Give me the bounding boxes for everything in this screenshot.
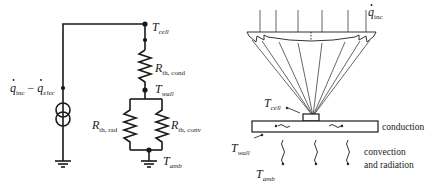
solar-cell: [303, 114, 319, 121]
resistor-conv: [156, 99, 168, 150]
label-conduction: conduction: [382, 122, 424, 132]
label-tamb: Tamb: [163, 154, 182, 170]
label-amb: Tamb: [256, 167, 275, 183]
resistor-cond: [139, 50, 151, 99]
ground-icon: [141, 161, 157, 167]
label-rconv: Rth, conv: [170, 118, 201, 134]
label-source: qinc − qelec: [10, 81, 56, 97]
label-cell: Tcell: [264, 96, 281, 112]
heat-sink-plate: [252, 121, 378, 132]
label-tcell: Tcell: [152, 20, 169, 36]
incident-rays: [260, 10, 366, 32]
label-rcond: Rth, cond: [154, 61, 185, 77]
label-radiation: and radiation: [364, 160, 414, 170]
dot-accent: [371, 4, 373, 6]
convection-arrows: [282, 140, 350, 165]
node-tcell: [143, 22, 147, 26]
fresnel-lens: [247, 32, 376, 42]
label-twall: Twall: [155, 82, 174, 98]
label-qinc: qinc: [368, 5, 383, 21]
node-dot: [144, 39, 147, 42]
node-dot: [62, 87, 65, 90]
resistor-rad: [124, 99, 136, 150]
label-convection: convection: [364, 147, 406, 157]
ground-icon: [55, 161, 71, 167]
label-rrad: Rth, rad: [91, 118, 118, 134]
dot-accent: [40, 79, 42, 81]
thermal-model-diagram: Tcell Rth, cond Twall Rth, rad Rth, conv…: [0, 0, 440, 192]
label-wall: Twall: [231, 141, 250, 157]
dot-accent: [13, 79, 15, 81]
thermal-circuit: [55, 22, 168, 167]
top-wire: [63, 24, 145, 161]
